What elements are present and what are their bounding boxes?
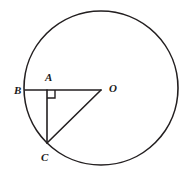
- geometry-diagram: B A O C: [0, 0, 195, 179]
- vertex-label-B: B: [14, 85, 21, 96]
- vertex-label-A: A: [45, 72, 52, 83]
- geometry-canvas: [0, 0, 195, 179]
- right-angle-marker-at-A: [47, 90, 55, 98]
- vertex-label-C: C: [41, 152, 48, 163]
- vertex-label-O: O: [109, 83, 117, 94]
